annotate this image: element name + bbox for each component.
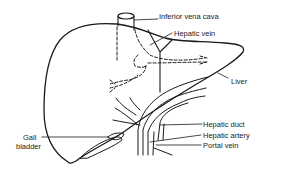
label-bladder: bladder [16, 143, 41, 151]
ivc-top [118, 13, 134, 19]
liver-illustration [0, 0, 283, 176]
label-liver: Liver [231, 78, 247, 86]
leader-ivc [134, 19, 158, 20]
inner-dashed [110, 55, 146, 92]
label-portal-vein: Portal vein [203, 142, 238, 150]
label-hepatic-vein: Hepatic vein [174, 30, 215, 38]
leader-liver [218, 73, 228, 78]
liver-diagram: Inferior vena cava Hepatic vein Liver He… [0, 0, 283, 176]
label-gall: Gall [23, 134, 36, 142]
leader-hepatic-duct [160, 124, 202, 125]
leader-hepatic-artery [150, 135, 201, 142]
label-hepatic-duct: Hepatic duct [203, 121, 245, 129]
label-hepatic-artery: Hepatic artery [203, 132, 250, 140]
label-inferior-vena-cava: Inferior vena cava [159, 13, 219, 21]
